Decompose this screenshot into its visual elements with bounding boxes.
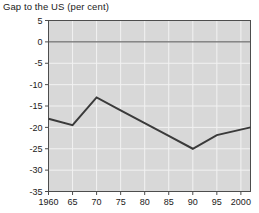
x-tick-label: 75 [116,197,126,207]
y-tick-label: 0 [37,37,42,47]
x-tick-label: 1960 [38,197,58,207]
x-tick-label: 80 [140,197,150,207]
x-axis: 1960657075808590952000 [38,192,250,208]
y-tick-label: 5 [37,16,42,26]
y-tick-label: -25 [29,144,42,154]
y-tick-label: -30 [29,165,42,175]
y-axis: 50-5-10-15-20-25-30-35 [29,16,48,197]
y-tick-label: -35 [29,187,42,197]
y-tick-label: -5 [34,58,42,68]
y-tick-label: -20 [29,123,42,133]
x-tick-label: 70 [92,197,102,207]
x-tick-label: 90 [188,197,198,207]
chart-figure: Gap to the US (per cent) 50-5-10-15-20-2… [0,0,259,213]
x-tick-label: 85 [164,197,174,207]
line-chart-plot: 50-5-10-15-20-25-30-35 19606570758085909… [0,0,259,213]
x-tick-label: 2000 [231,197,251,207]
y-tick-label: -15 [29,101,42,111]
y-tick-label: -10 [29,80,42,90]
x-tick-label: 65 [68,197,78,207]
x-tick-label: 95 [212,197,222,207]
